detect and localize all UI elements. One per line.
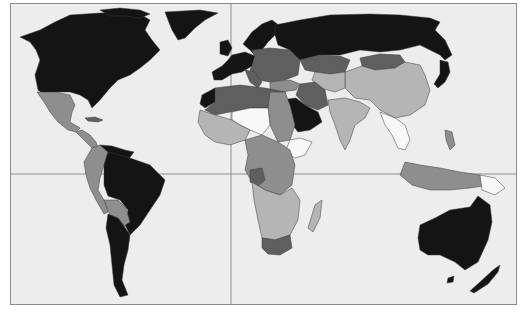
region-russia[interactable] [275, 14, 452, 60]
region-india[interactable] [328, 98, 370, 150]
region-uk[interactable] [220, 40, 232, 56]
region-japan[interactable] [434, 60, 450, 88]
region-greenland[interactable] [165, 10, 218, 40]
region-new-zealand[interactable] [470, 265, 500, 293]
region-central-america[interactable] [76, 130, 98, 148]
region-madagascar[interactable] [308, 200, 322, 232]
region-mexico[interactable] [37, 92, 80, 132]
region-indonesia[interactable] [400, 162, 490, 190]
world-map[interactable] [0, 0, 526, 316]
region-caribbean[interactable] [85, 117, 103, 122]
region-philippines[interactable] [445, 130, 455, 150]
region-tasmania[interactable] [447, 276, 454, 283]
region-australia[interactable] [418, 196, 492, 270]
region-new-guinea[interactable] [480, 175, 505, 195]
